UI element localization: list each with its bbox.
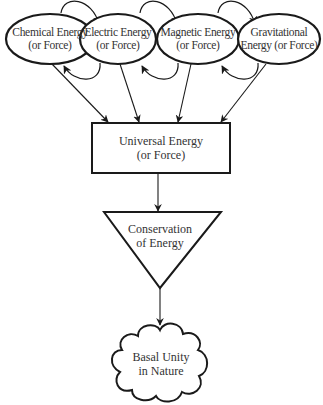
conservation-line2: of Energy xyxy=(110,236,210,250)
universal-energy-line1: Universal Energy xyxy=(92,134,230,148)
arrows-to-universal xyxy=(52,64,266,122)
magnetic-energy-label: Magnetic Energy (or Force) xyxy=(157,26,239,52)
universal-energy-line2: (or Force) xyxy=(92,148,230,162)
energy-flow-diagram xyxy=(0,0,323,405)
conservation-line1: Conservation xyxy=(110,222,210,236)
magnetic-energy-line1: Magnetic Energy xyxy=(157,26,239,39)
gravitational-energy-label: Gravitational Energy (or Force) xyxy=(238,26,320,52)
magnetic-energy-line2: (or Force) xyxy=(157,39,239,52)
gravitational-energy-line2: Energy (or Force) xyxy=(238,39,320,52)
gravitational-energy-line1: Gravitational xyxy=(238,26,320,39)
basal-unity-label: Basal Unity in Nature xyxy=(112,350,210,378)
conservation-label: Conservation of Energy xyxy=(110,222,210,250)
electric-energy-line1: Electric Energy xyxy=(80,26,156,39)
basal-unity-line1: Basal Unity xyxy=(112,350,210,364)
basal-unity-line2: in Nature xyxy=(112,364,210,378)
universal-energy-label: Universal Energy (or Force) xyxy=(92,134,230,162)
curved-arrows-bottom xyxy=(64,63,258,79)
electric-energy-line2: (or Force) xyxy=(80,39,156,52)
electric-energy-label: Electric Energy (or Force) xyxy=(80,26,156,52)
